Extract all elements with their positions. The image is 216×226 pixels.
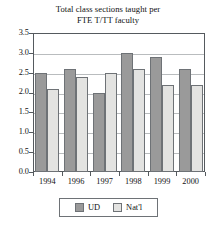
x-axis-tick-mark [148,172,149,176]
chart-legend: UDNat'l [59,198,158,217]
x-axis-tick-mark [205,172,206,176]
x-axis-tick-label-2000: 2000 [176,177,205,186]
x-axis-tick-mark [119,172,120,176]
bar-ud-2000 [179,69,191,172]
bar-ud-1994 [35,73,47,172]
bar-natl-1999 [162,85,174,172]
bar-natl-1997 [105,73,117,172]
bar-ud-1996 [64,69,76,172]
chart-title-line-1: Total class sections taught per [0,4,216,15]
x-axis-tick-mark [33,172,34,176]
x-axis-tick-mark [176,172,177,176]
legend-label: UD [88,203,100,212]
y-axis-tick-label: 2.5 [3,69,29,77]
legend-swatch-icon [75,203,84,212]
legend-entry-ud: UD [75,203,100,212]
legend-label: Nat'l [126,203,142,212]
bar-ud-1999 [150,57,162,172]
y-axis: 0.00.51.01.52.02.53.03.5 [3,0,29,226]
bar-natl-1994 [47,89,59,172]
x-axis-tick-label-1997: 1997 [90,177,119,186]
x-axis-tick-label-1996: 1996 [62,177,91,186]
bar-natl-1998 [133,69,145,172]
bar-ud-1997 [93,93,105,172]
x-axis-tick-label-1994: 1994 [33,177,62,186]
x-axis-tick-label-1999: 1999 [148,177,177,186]
y-axis-tick-label: 1.5 [3,108,29,116]
y-axis-tick-label: 0.5 [3,148,29,156]
chart-title-line-2: FTE T/TT faculty [0,15,216,26]
y-axis-tick-label: 0.0 [3,168,29,176]
x-axis-tick-mark [62,172,63,176]
x-axis-tick-mark [90,172,91,176]
y-axis-tick-label: 3.5 [3,29,29,37]
y-axis-tick-label: 3.0 [3,49,29,57]
bar-ud-1998 [121,53,133,172]
y-axis-tick-label: 2.0 [3,88,29,96]
bar-natl-2000 [191,85,203,172]
y-axis-tick-label: 1.0 [3,128,29,136]
x-axis-tick-label-1998: 1998 [119,177,148,186]
bars-layer [33,33,205,172]
chart-title: Total class sections taught per FTE T/TT… [0,4,216,25]
bar-natl-1996 [76,77,88,172]
legend-entry-natl: Nat'l [113,203,142,212]
legend-swatch-icon [113,203,122,212]
bar-chart-figure: Total class sections taught per FTE T/TT… [0,0,216,226]
